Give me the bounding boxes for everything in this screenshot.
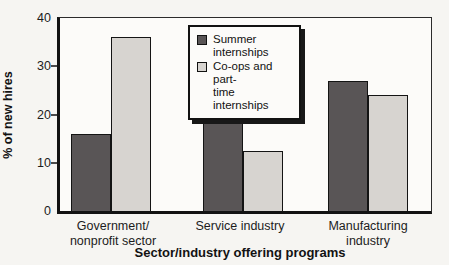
legend-label: Summer internships xyxy=(213,33,293,59)
y-tick-label-40: 40 xyxy=(0,11,51,25)
bar-chart-figure: % of new hires 010203040 Government/ non… xyxy=(0,0,449,265)
legend-label: Co-ops and part- time internships xyxy=(213,60,293,112)
bar-co-ops-and-part-time-internships-service-industry xyxy=(243,151,283,211)
y-tick-mark-30 xyxy=(51,65,57,67)
bar-summer-internships-government xyxy=(71,134,111,211)
y-tick-label-30: 30 xyxy=(0,59,51,73)
bar-co-ops-and-part-time-internships-manufacturing xyxy=(368,95,408,211)
legend-swatch-icon xyxy=(197,62,207,72)
bar-summer-internships-manufacturing xyxy=(328,81,368,211)
y-tick-mark-10 xyxy=(51,162,57,164)
legend-swatch-icon xyxy=(197,35,207,45)
y-tick-label-20: 20 xyxy=(0,108,51,122)
y-tick-label-0: 0 xyxy=(0,204,51,218)
legend-item-co-ops-and-part-time-internships: Co-ops and part- time internships xyxy=(197,60,293,112)
y-tick-label-10: 10 xyxy=(0,156,51,170)
y-tick-mark-20 xyxy=(51,114,57,116)
bar-co-ops-and-part-time-internships-government xyxy=(111,37,151,211)
legend-item-summer-internships: Summer internships xyxy=(197,33,293,59)
x-axis-title: Sector/industry offering programs xyxy=(0,245,449,260)
legend: Summer internshipsCo-ops and part- time … xyxy=(188,25,301,120)
